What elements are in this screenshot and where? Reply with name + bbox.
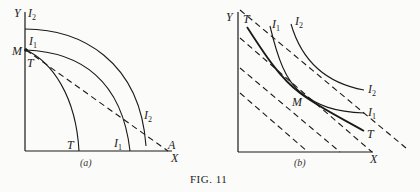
panel-a-label-i1-bottom: I1 (113, 136, 122, 152)
panel-b-price-line-1 (240, 10, 406, 148)
panel-a-x-label: X (170, 151, 179, 165)
panel-a (25, 12, 172, 151)
panel-a-caption: (a) (80, 157, 92, 169)
panel-b-label-i1-top: I1 (271, 17, 280, 33)
panel-a-label-a: A (167, 138, 176, 152)
panel-b-label-m: M (291, 95, 303, 109)
panel-b-label-i2-right: I2 (367, 82, 376, 98)
panel-b-label-i2-top: I2 (294, 14, 303, 30)
panel-a-point-m (25, 49, 28, 52)
figure-caption: FIG. 11 (190, 173, 227, 185)
panel-b-label-i1-right: I1 (367, 105, 376, 121)
panel-b-curve-t (247, 27, 364, 131)
panel-a-label-i2-top: I2 (27, 6, 36, 22)
panel-b (238, 10, 406, 152)
figure-canvas: Y I2 I1 M T T I1 I2 A X (a) Y T I1 I2 I2… (0, 0, 420, 192)
panel-a-label-t-top: T (27, 56, 35, 70)
panel-b-y-label: Y (226, 10, 234, 24)
panel-b-curve-i1 (270, 26, 364, 113)
panel-b-label-t-right: T (367, 127, 375, 141)
panel-a-curve-t (26, 50, 79, 151)
panel-a-label-m: M (11, 44, 23, 58)
panel-b-curve-i2 (291, 24, 364, 90)
panel-b-labels: Y T I1 I2 I2 I1 T M X (b) (226, 10, 378, 169)
panel-a-label-i1-top: I1 (28, 34, 37, 50)
panel-b-label-t-top: T (243, 12, 251, 26)
panel-a-y-label: Y (14, 6, 22, 20)
panel-a-labels: Y I2 I1 M T T I1 I2 A X (a) (11, 6, 179, 169)
panel-b-caption: (b) (294, 157, 306, 169)
panel-a-curve-i2 (25, 29, 146, 146)
panel-a-label-t-bottom: T (67, 138, 75, 152)
panel-b-x-label: X (369, 152, 378, 166)
panel-a-label-i2-right: I2 (143, 108, 152, 124)
